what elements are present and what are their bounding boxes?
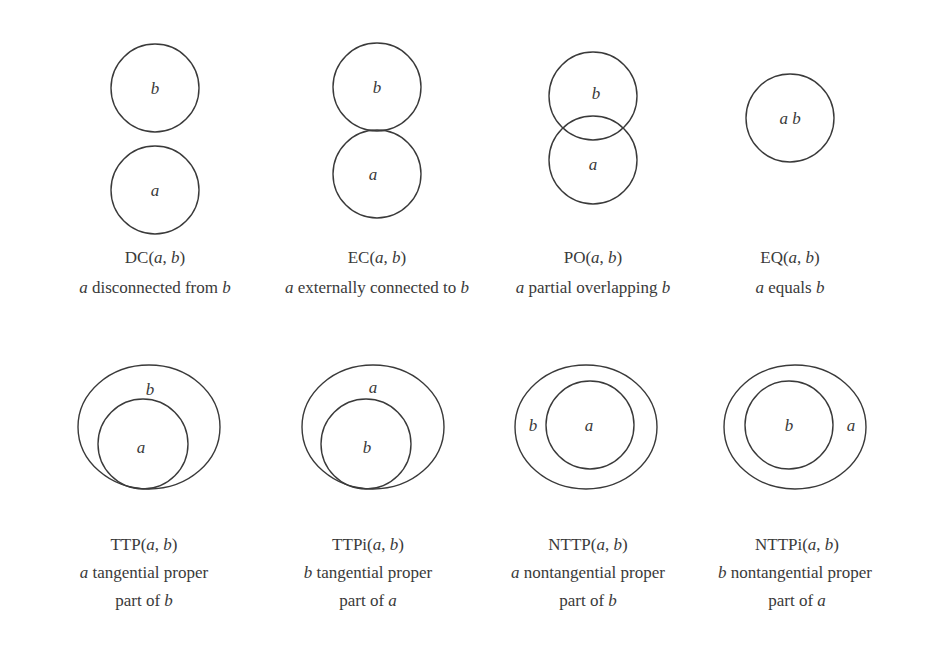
relation-description-line1: a tangential proper xyxy=(80,563,209,582)
relation-eq: a b EQ(a, b) a equals b xyxy=(746,74,834,297)
relation-name: PO(a, b) xyxy=(564,248,623,267)
region-a-label: a xyxy=(589,155,598,174)
relation-nttpi: b a NTTPi(a, b) b nontangential proper p… xyxy=(718,365,872,610)
region-b-label: b xyxy=(592,84,601,103)
relation-description-line2: part of b xyxy=(559,591,617,610)
region-a-label: a xyxy=(369,378,378,397)
relation-description: a externally connected to b xyxy=(285,278,469,297)
relation-description-line1: b nontangential proper xyxy=(718,563,872,582)
region-a-label: a xyxy=(137,438,146,457)
relation-dc: b a DC(a, b) a disconnected from b xyxy=(79,44,231,297)
region-a-label: a xyxy=(847,416,856,435)
region-b-label: b xyxy=(785,416,794,435)
relation-description: a disconnected from b xyxy=(79,278,231,297)
relation-ec: b a EC(a, b) a externally connected to b xyxy=(285,43,469,297)
rcc8-diagram: b a DC(a, b) a disconnected from b b a E… xyxy=(0,0,937,647)
region-a-label: a xyxy=(585,416,594,435)
region-ab-label: a b xyxy=(779,109,800,128)
relation-ttp: b a TTP(a, b) a tangential proper part o… xyxy=(78,365,220,610)
region-a-label: a xyxy=(151,181,160,200)
region-a-label: a xyxy=(369,165,378,184)
relation-name: EQ(a, b) xyxy=(760,248,820,267)
relation-description-line2: part of a xyxy=(339,591,397,610)
region-b-label: b xyxy=(363,438,372,457)
relation-name: NTTPi(a, b) xyxy=(755,535,839,554)
relation-name: NTTP(a, b) xyxy=(548,535,627,554)
relation-name: TTP(a, b) xyxy=(110,535,177,554)
relation-description-line1: b tangential proper xyxy=(304,563,433,582)
relation-name: EC(a, b) xyxy=(348,248,407,267)
relation-description: a partial overlapping b xyxy=(516,278,670,297)
region-b-label: b xyxy=(146,380,155,399)
relation-description-line2: part of a xyxy=(768,591,826,610)
region-b-label: b xyxy=(151,79,160,98)
region-b-label: b xyxy=(373,78,382,97)
relation-description-line2: part of b xyxy=(115,591,173,610)
relation-description-line1: a nontangential proper xyxy=(511,563,665,582)
relation-name: TTPi(a, b) xyxy=(332,535,404,554)
relation-ttpi: a b TTPi(a, b) b tangential proper part … xyxy=(302,365,444,610)
region-b-label: b xyxy=(529,416,538,435)
relation-nttp: b a NTTP(a, b) a nontangential proper pa… xyxy=(511,365,665,610)
relation-description: a equals b xyxy=(756,278,825,297)
relation-po: b a PO(a, b) a partial overlapping b xyxy=(516,52,670,297)
relation-name: DC(a, b) xyxy=(125,248,185,267)
